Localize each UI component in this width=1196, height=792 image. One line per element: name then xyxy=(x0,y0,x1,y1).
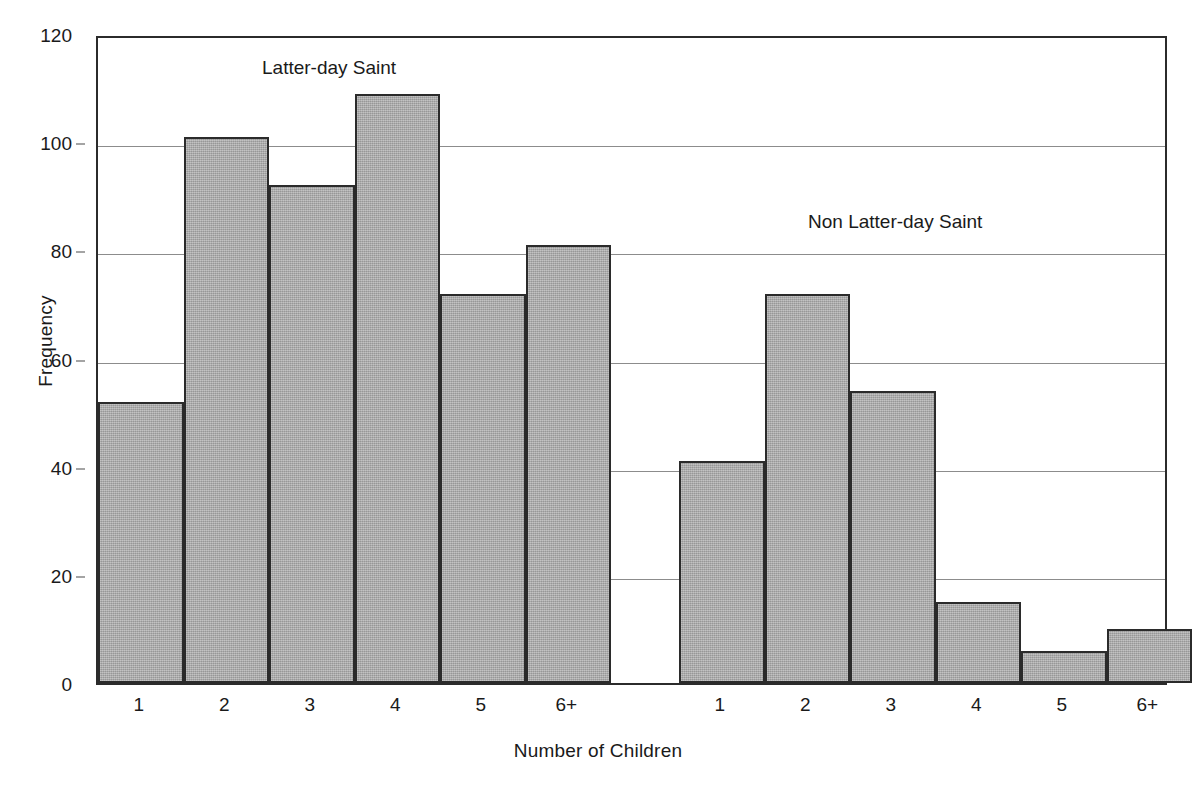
x-tick-label: 5 xyxy=(475,694,486,716)
bar xyxy=(765,294,851,683)
x-tick-label: 4 xyxy=(971,694,982,716)
chart-figure: Frequency 020406080100120 123456+123456+… xyxy=(0,0,1196,792)
y-tick-label: 0 xyxy=(61,674,72,696)
y-tick-label: 40 xyxy=(51,458,72,480)
x-tick-label: 3 xyxy=(304,694,315,716)
group-annotation: Non Latter-day Saint xyxy=(808,211,982,233)
x-tick-label: 5 xyxy=(1056,694,1067,716)
x-tick-label: 2 xyxy=(219,694,230,716)
y-tick-mark xyxy=(76,360,85,361)
x-tick-label: 2 xyxy=(800,694,811,716)
y-tick-label: 80 xyxy=(51,241,72,263)
x-tick-label: 6+ xyxy=(555,694,577,716)
bar xyxy=(184,137,270,683)
x-axis-tick-labels: 123456+123456+ xyxy=(96,694,1167,728)
y-axis-tick-labels: 020406080100120 xyxy=(0,0,96,792)
bar xyxy=(440,294,526,683)
plot-area xyxy=(96,36,1167,685)
bar xyxy=(1107,629,1193,683)
y-tick-mark xyxy=(76,252,85,253)
y-tick-mark xyxy=(76,144,85,145)
x-tick-label: 3 xyxy=(885,694,896,716)
bar xyxy=(98,402,184,683)
x-tick-label: 4 xyxy=(390,694,401,716)
group-annotation: Latter-day Saint xyxy=(262,57,396,79)
bar xyxy=(850,391,936,683)
bar xyxy=(679,461,765,683)
bar xyxy=(355,94,441,684)
y-tick-label: 20 xyxy=(51,566,72,588)
y-tick-label: 60 xyxy=(51,350,72,372)
x-axis-title: Number of Children xyxy=(0,740,1196,762)
x-tick-label: 6+ xyxy=(1136,694,1158,716)
x-tick-label: 1 xyxy=(133,694,144,716)
bar-series xyxy=(98,38,1165,683)
bar xyxy=(1021,651,1107,683)
y-tick-mark xyxy=(76,468,85,469)
y-tick-label: 100 xyxy=(40,133,72,155)
bar xyxy=(936,602,1022,683)
y-tick-label: 120 xyxy=(40,25,72,47)
y-tick-mark xyxy=(76,576,85,577)
x-tick-label: 1 xyxy=(714,694,725,716)
bar xyxy=(526,245,612,683)
bar xyxy=(269,185,355,683)
